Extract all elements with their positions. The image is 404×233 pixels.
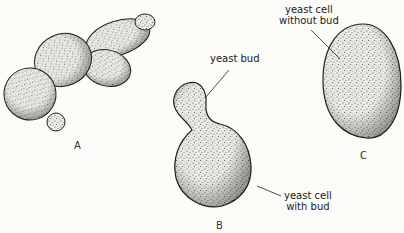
- label-line: yeast cell: [279, 4, 339, 15]
- label-line: yeast cell: [284, 190, 332, 201]
- label-line: without bud: [279, 15, 339, 26]
- label-yeast-cell-with-bud: yeast cell with bud: [284, 190, 332, 212]
- diagram-drawing: [0, 0, 404, 233]
- panel-c-cell-without-bud: [311, 24, 401, 138]
- label-yeast-cell-without-bud: yeast cell without bud: [279, 4, 339, 26]
- panel-b-cell-with-bud: [174, 70, 281, 207]
- label-line: with bud: [284, 201, 332, 212]
- label-yeast-bud: yeast bud: [210, 53, 260, 64]
- panel-a-cells: [0, 12, 155, 131]
- panel-letter-a: A: [74, 140, 81, 151]
- yeast-bud-pointer: [205, 70, 229, 98]
- yeast-diagram: yeast bud yeast cell with bud yeast cell…: [0, 0, 404, 233]
- panel-letter-b: B: [216, 220, 223, 231]
- panel-letter-c: C: [360, 150, 367, 161]
- cell-with-bud-pointer: [257, 186, 281, 196]
